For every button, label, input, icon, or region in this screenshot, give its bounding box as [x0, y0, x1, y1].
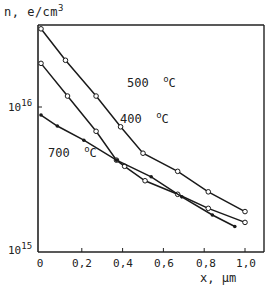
axis-ticks [38, 107, 245, 252]
data-point [206, 206, 211, 211]
data-point [94, 94, 99, 99]
data-point [39, 113, 43, 117]
data-point [65, 94, 70, 99]
data-point [180, 195, 184, 199]
data-point [233, 225, 237, 229]
data-point [94, 129, 99, 134]
data-point [243, 209, 248, 214]
data-point [141, 151, 146, 156]
plot-area [0, 0, 270, 290]
data-point [63, 58, 68, 63]
data-point [56, 124, 60, 128]
data-point [211, 213, 215, 217]
series-500c [39, 27, 248, 214]
axes-frame [38, 25, 264, 252]
series-700c [39, 113, 236, 228]
data-point [82, 138, 86, 142]
data-point [243, 220, 248, 225]
series-400c [39, 61, 248, 225]
data-point [118, 125, 123, 130]
data-point [206, 190, 211, 195]
data-point [39, 61, 44, 66]
data-point [143, 178, 148, 183]
data-point [175, 169, 180, 174]
data-point [39, 27, 44, 32]
series-layer [39, 27, 248, 229]
data-point [149, 175, 153, 179]
data-point [115, 158, 119, 162]
